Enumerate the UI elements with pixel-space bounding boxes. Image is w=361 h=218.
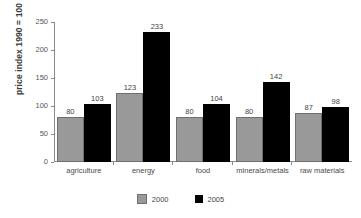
bar-value-label: 80 (66, 107, 74, 116)
bar-slot: 80 (176, 22, 203, 162)
bar-slot: 233 (143, 22, 170, 162)
bar-group: 80142 (233, 22, 293, 162)
y-axis-title: price index 1990 = 100 (14, 0, 24, 124)
bar-slot: 142 (263, 22, 290, 162)
chart-legend: 20002005 (0, 194, 361, 204)
x-axis-group-tick (113, 162, 114, 165)
bar-groups: 8010312323380104801428798 (54, 22, 352, 162)
x-axis-group-tick (172, 162, 173, 165)
bar-food-2005[interactable] (203, 104, 230, 162)
x-axis-labels: agricultureenergyfoodminerals/metalsraw … (54, 166, 352, 175)
bar-energy-2005[interactable] (143, 32, 170, 162)
x-axis-category-label: raw materials (292, 166, 352, 175)
black-square-swatch (195, 195, 203, 203)
bar-minerals-metals-2000[interactable] (236, 117, 263, 162)
bar-value-label: 98 (332, 97, 340, 106)
y-tick-label: 0 (44, 157, 48, 166)
y-tick-label: 150 (35, 73, 48, 82)
bar-value-label: 80 (245, 107, 253, 116)
y-tick-label: 50 (40, 129, 48, 138)
gray-square-swatch (137, 194, 147, 204)
bar-group: 123233 (114, 22, 174, 162)
bar-slot: 104 (203, 22, 230, 162)
x-axis-category-label: energy (114, 166, 174, 175)
bar-slot: 87 (295, 22, 322, 162)
x-axis-group-tick (291, 162, 292, 165)
bar-group: 80103 (54, 22, 114, 162)
legend-label: 2000 (152, 195, 169, 204)
y-tick-label: 200 (35, 45, 48, 54)
bar-value-label: 123 (124, 83, 137, 92)
bar-group: 8798 (292, 22, 352, 162)
legend-item-2005[interactable]: 2005 (195, 194, 225, 204)
bar-group: 80104 (173, 22, 233, 162)
legend-item-2000[interactable]: 2000 (137, 194, 169, 204)
bar-slot: 98 (322, 22, 349, 162)
plot-area: 050100150200250 801031232338010480142879… (54, 22, 352, 162)
bar-food-2000[interactable] (176, 117, 203, 162)
bar-minerals-metals-2005[interactable] (263, 82, 290, 162)
x-axis-group-tick (232, 162, 233, 165)
bar-slot: 80 (236, 22, 263, 162)
bar-raw-materials-2000[interactable] (295, 113, 322, 162)
bar-agriculture-2000[interactable] (57, 117, 84, 162)
bar-raw-materials-2005[interactable] (322, 107, 349, 162)
bar-value-label: 104 (210, 94, 223, 103)
bar-slot: 123 (116, 22, 143, 162)
bar-slot: 103 (84, 22, 111, 162)
x-axis-category-label: food (173, 166, 233, 175)
x-axis-category-label: minerals/metals (233, 166, 293, 175)
bar-value-label: 87 (305, 103, 313, 112)
bar-value-label: 80 (185, 107, 193, 116)
bar-value-label: 103 (91, 94, 104, 103)
bar-energy-2000[interactable] (116, 93, 143, 162)
bar-slot: 80 (57, 22, 84, 162)
bar-chart: price index 1990 = 100 050100150200250 8… (0, 0, 361, 218)
y-tick-label: 250 (35, 17, 48, 26)
bar-agriculture-2005[interactable] (84, 104, 111, 162)
y-tick-label: 100 (35, 101, 48, 110)
x-axis-category-label: agriculture (54, 166, 114, 175)
bar-value-label: 233 (151, 22, 164, 31)
legend-label: 2005 (208, 195, 225, 204)
bar-value-label: 142 (270, 72, 283, 81)
